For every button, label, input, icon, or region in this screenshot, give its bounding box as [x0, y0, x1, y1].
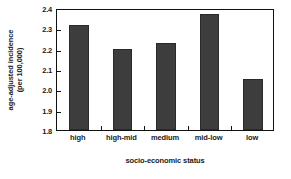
bar: [200, 14, 220, 130]
y-axis-title: age-adjusted incidence (per 100,000): [0, 0, 30, 140]
plot-frame: [56, 9, 274, 131]
bar: [243, 79, 263, 130]
y-axis-tick-label: 2.2: [42, 45, 52, 54]
y-axis-tick-label: 2.3: [42, 25, 52, 34]
bar-series: [57, 10, 273, 130]
y-axis-tick-label: 2.1: [42, 66, 52, 75]
bar: [156, 43, 176, 130]
x-axis-tick-label: low: [246, 133, 258, 142]
bar-chart: age-adjusted incidence (per 100,000) 1.8…: [0, 0, 291, 179]
x-axis-tick-label: mid-low: [195, 133, 223, 142]
x-axis-tick-label: medium: [151, 133, 179, 142]
y-axis-tick-label: 2.4: [42, 5, 52, 14]
x-axis-tick-label: high-mid: [106, 133, 137, 142]
bar: [113, 49, 133, 130]
bar: [69, 25, 89, 130]
y-axis-title-line-1: age-adjusted incidence: [6, 30, 15, 111]
y-axis-title-line-2: (per 100,000): [15, 30, 24, 111]
x-axis-title: socio-economic status: [56, 156, 274, 165]
y-axis-tick-label: 2.0: [42, 86, 52, 95]
y-axis-tick-label: 1.8: [42, 127, 52, 136]
y-axis-tick-label: 1.9: [42, 106, 52, 115]
x-axis-tick-label: high: [70, 133, 85, 142]
y-axis-tick-labels: 1.81.92.02.12.22.32.4: [30, 9, 54, 131]
x-axis-tick-labels: highhigh-midmediummid-lowlow: [56, 133, 274, 147]
